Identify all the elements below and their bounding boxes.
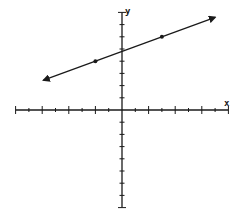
- data-point: [93, 59, 97, 63]
- x-axis-label: x: [224, 98, 230, 108]
- line-with-arrows: [44, 17, 216, 80]
- y-axis-label: y: [125, 6, 131, 16]
- plotted-line: [44, 17, 216, 80]
- data-point: [160, 35, 164, 39]
- coordinate-plane: x y: [0, 0, 238, 222]
